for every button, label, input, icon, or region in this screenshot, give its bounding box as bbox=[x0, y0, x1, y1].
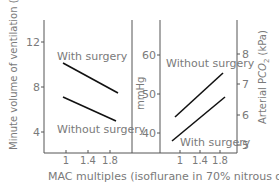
left-with-surgery-label: With surgery bbox=[57, 50, 128, 63]
mmhg-label: mmHg bbox=[135, 77, 146, 110]
right-x-tick-1.8: 1.8 bbox=[212, 155, 228, 166]
right-with-surgery-label: With surgery bbox=[180, 136, 251, 149]
x-ticks: 1 1.4 1.8 1 1.4 1.8 bbox=[63, 150, 228, 166]
right-without-surgery-label: Without surgery bbox=[166, 57, 255, 70]
left-y-axis-label: Minute volume of ventilation (l.min−1) bbox=[7, 0, 19, 150]
right-x-tick-1: 1 bbox=[177, 155, 183, 166]
left-tick-12: 12 bbox=[26, 36, 40, 49]
left-with-surgery-line bbox=[63, 63, 118, 93]
left-x-tick-1.8: 1.8 bbox=[102, 155, 118, 166]
left-without-surgery-line bbox=[63, 97, 116, 121]
right-x-tick-1.4: 1.4 bbox=[192, 155, 208, 166]
mid-tick-60: 60 bbox=[142, 49, 156, 62]
right-with-surgery-line bbox=[172, 97, 225, 141]
right-tick-6: 6 bbox=[242, 109, 249, 122]
left-tick-8: 8 bbox=[33, 81, 40, 94]
left-x-tick-1: 1 bbox=[63, 155, 69, 166]
right-without-surgery-line bbox=[175, 73, 223, 117]
left-tick-4: 4 bbox=[33, 126, 40, 139]
x-axis-label: MAC multiples (isoflurane in 70% nitrous… bbox=[48, 170, 279, 183]
left-y-ticks: 12 8 4 bbox=[26, 36, 44, 139]
chart-canvas: 12 8 4 60 50 40 8 7 6 5 1 1.4 1.8 1 1.4 … bbox=[0, 0, 279, 190]
right-y-axis-label: Arterial PCO2 (kPa) bbox=[257, 30, 271, 124]
left-without-surgery-label: Without surgery bbox=[57, 123, 146, 136]
right-tick-7: 7 bbox=[242, 78, 249, 91]
left-x-tick-1.4: 1.4 bbox=[80, 155, 96, 166]
